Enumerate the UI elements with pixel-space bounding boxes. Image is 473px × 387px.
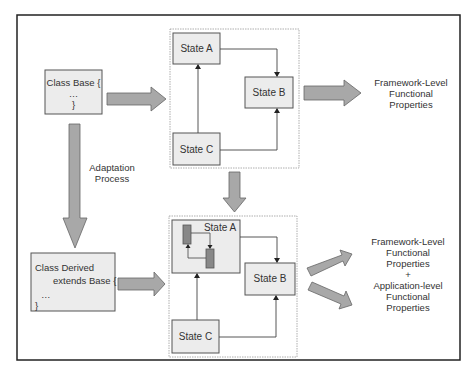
top-state-a-label: State A xyxy=(173,43,220,54)
top-output-label: Framework-Level Functional Properties xyxy=(363,77,459,110)
substate-1 xyxy=(183,225,191,244)
bottom-state-b-label: State B xyxy=(245,273,295,284)
bottom-output-line2: Functional xyxy=(355,247,461,258)
class-derived-line3: … xyxy=(35,289,116,300)
bottom-output-line6: Functional xyxy=(355,291,461,302)
top-output-line1: Framework-Level xyxy=(363,77,459,88)
substate-2 xyxy=(206,249,214,268)
top-state-b-label: State B xyxy=(245,87,293,98)
bottom-output-line5: Application-level xyxy=(355,280,461,291)
class-base-label: Class Base { … } xyxy=(45,77,102,110)
class-derived-line2: extends Base { xyxy=(35,275,116,286)
bottom-output-label: Framework-Level Functional Properties + … xyxy=(355,236,461,313)
adaptation-process-label: Adaptation Process xyxy=(82,162,142,184)
bottom-state-c-label: State C xyxy=(172,331,219,342)
top-state-c-label: State C xyxy=(173,144,220,155)
class-derived-label: Class Derived extends Base { … } xyxy=(35,262,116,311)
bottom-output-line7: Properties xyxy=(355,302,461,313)
adaptation-line2: Process xyxy=(82,173,142,184)
bottom-output-line4: + xyxy=(355,269,461,280)
top-output-line2: Functional xyxy=(363,88,459,99)
class-base-line2: … xyxy=(45,88,102,99)
top-output-line3: Properties xyxy=(363,99,459,110)
bottom-state-a-label: State A xyxy=(200,222,240,233)
adaptation-line1: Adaptation xyxy=(82,162,142,173)
class-base-line3: } xyxy=(45,99,102,110)
class-derived-line4: } xyxy=(35,300,116,311)
diagram-canvas xyxy=(0,0,473,387)
class-base-line1: Class Base { xyxy=(45,77,102,88)
class-derived-line1: Class Derived xyxy=(35,262,116,273)
bottom-output-line3: Properties xyxy=(355,258,461,269)
bottom-output-line1: Framework-Level xyxy=(355,236,461,247)
